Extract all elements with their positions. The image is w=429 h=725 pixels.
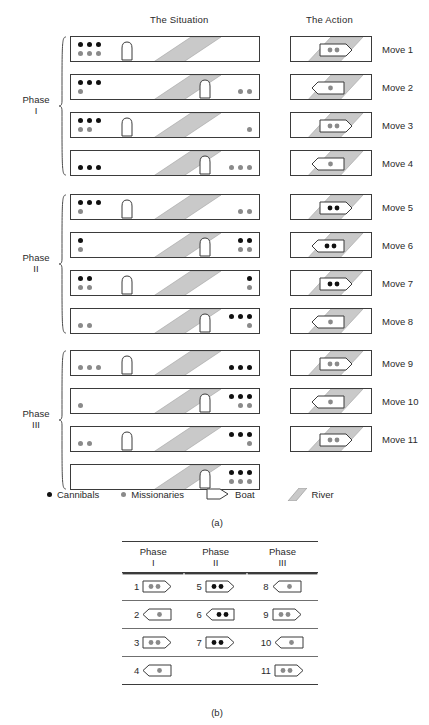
bank-boat-icon bbox=[121, 355, 133, 375]
table-cell bbox=[184, 657, 246, 685]
table-header-line1: Phase bbox=[122, 546, 184, 557]
move-label: Move 10 bbox=[382, 396, 418, 407]
table-header-row: PhaseIPhaseIIPhaseIII bbox=[122, 542, 318, 573]
table-cell: 6 bbox=[184, 601, 246, 629]
missionary-dot-icon bbox=[78, 441, 83, 446]
legend-item-river: River bbox=[279, 488, 334, 501]
move-label: Move 2 bbox=[382, 82, 413, 93]
table-boat-icon bbox=[142, 664, 172, 677]
table-boat-icon bbox=[205, 608, 235, 621]
cannibal-dot-icon bbox=[229, 470, 234, 475]
summary-table: PhaseIPhaseIIPhaseIII 1582693710411 bbox=[122, 541, 318, 685]
phase-label-line1: Phase bbox=[23, 252, 50, 263]
cannibal-dot-icon bbox=[238, 394, 243, 399]
bank-dot-row bbox=[78, 42, 101, 47]
table-move-cell: 8 bbox=[247, 580, 318, 593]
legend-item-cannibals: Cannibals bbox=[47, 489, 99, 500]
situation-row bbox=[70, 150, 260, 176]
action-boat-icon bbox=[319, 119, 353, 133]
cannibal-dot-icon bbox=[238, 365, 243, 370]
table-header-line2: II bbox=[184, 557, 246, 568]
table-move-cell: 6 bbox=[184, 608, 246, 621]
table-row: 158 bbox=[122, 573, 318, 601]
figure-root: The Situation The Action PhaseIPhaseIIPh… bbox=[0, 0, 429, 725]
table-cell: 11 bbox=[247, 657, 318, 685]
bank-dot-row bbox=[78, 276, 92, 281]
bank-dot-row bbox=[247, 276, 252, 281]
bank-dot-row bbox=[229, 394, 252, 399]
river-icon bbox=[279, 488, 307, 501]
bank-dot-row bbox=[247, 323, 252, 328]
cannibal-dot-icon bbox=[96, 118, 101, 123]
cannibal-dot-icon bbox=[87, 42, 92, 47]
bank-dot-row bbox=[78, 89, 101, 94]
left-bank-group bbox=[78, 80, 101, 94]
missionary-dot-icon bbox=[96, 51, 101, 56]
bank-dot-row bbox=[238, 89, 252, 94]
action-boat-icon bbox=[319, 201, 353, 215]
missionary-dot-icon bbox=[229, 479, 234, 484]
phase-brace bbox=[58, 350, 67, 490]
cannibal-dot-icon bbox=[87, 118, 92, 123]
bank-dot-row bbox=[78, 118, 101, 123]
action-boat-icon bbox=[319, 357, 353, 371]
table-move-cell: 5 bbox=[184, 580, 246, 593]
missionary-dot-icon bbox=[87, 285, 92, 290]
table-boat-icon bbox=[272, 608, 302, 621]
situation-row bbox=[70, 350, 260, 376]
table-move-number: 4 bbox=[134, 665, 139, 676]
table-move-cell: 4 bbox=[122, 664, 184, 677]
situation-row bbox=[70, 388, 260, 414]
bank-boat-icon bbox=[199, 237, 211, 257]
move-label: Move 6 bbox=[382, 240, 413, 251]
phase-label-3: PhaseIII bbox=[12, 409, 60, 430]
missionary-dot-icon bbox=[87, 441, 92, 446]
bank-dot-row bbox=[229, 365, 252, 370]
table-header-line1: Phase bbox=[247, 546, 318, 557]
situation-row bbox=[70, 270, 260, 296]
left-bank-group bbox=[78, 42, 101, 56]
missionary-dot-icon bbox=[78, 51, 83, 56]
bank-dot-row bbox=[78, 403, 83, 408]
table-cell: 1 bbox=[122, 573, 184, 601]
missionary-dot-icon bbox=[87, 323, 92, 328]
situation-row bbox=[70, 194, 260, 220]
phase-label-line1: Phase bbox=[23, 94, 50, 105]
bank-boat-icon bbox=[121, 431, 133, 451]
right-bank-group bbox=[229, 314, 252, 328]
table-column-header-2: PhaseII bbox=[184, 542, 246, 573]
missionary-dot-icon bbox=[78, 127, 83, 132]
table-move-number: 3 bbox=[134, 637, 139, 648]
table-move-number: 7 bbox=[197, 637, 202, 648]
missionary-dot-icon bbox=[247, 323, 252, 328]
right-bank-group bbox=[229, 165, 252, 170]
bank-dot-row bbox=[238, 247, 252, 252]
missionary-dot-icon bbox=[96, 365, 101, 370]
bank-boat-icon bbox=[199, 155, 211, 175]
table-column-header-1: PhaseI bbox=[122, 542, 184, 573]
missionary-dot-icon bbox=[78, 365, 83, 370]
action-row bbox=[290, 232, 372, 258]
bank-dot-row bbox=[78, 238, 83, 243]
left-bank-group bbox=[78, 200, 101, 214]
table-cell: 8 bbox=[247, 573, 318, 601]
cannibal-dot-icon bbox=[96, 165, 101, 170]
missionary-dot-icon bbox=[78, 403, 83, 408]
table-boat-icon bbox=[274, 664, 304, 677]
missionary-dot-icon bbox=[78, 323, 83, 328]
bank-boat-icon bbox=[199, 79, 211, 99]
bank-dot-row bbox=[229, 314, 252, 319]
missionary-dot-icon bbox=[247, 441, 252, 446]
cannibal-dot-icon bbox=[78, 118, 83, 123]
table-move-number: 5 bbox=[197, 581, 202, 592]
table-row: 269 bbox=[122, 601, 318, 629]
cannibal-dot-icon bbox=[87, 165, 92, 170]
bank-boat-icon bbox=[121, 117, 133, 137]
cannibal-dot-icon bbox=[229, 432, 234, 437]
bank-boat-icon bbox=[199, 469, 211, 489]
bank-dot-row bbox=[247, 285, 252, 290]
column-header-situation: The Situation bbox=[150, 14, 209, 25]
cannibal-dot-icon bbox=[78, 42, 83, 47]
right-bank-group bbox=[238, 89, 252, 94]
action-boat-icon bbox=[311, 239, 345, 253]
